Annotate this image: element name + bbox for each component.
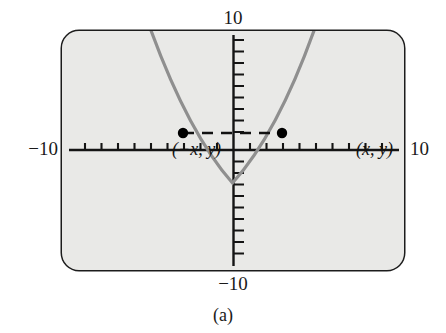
- figure-container: 10 −10 10 −10: [0, 0, 446, 333]
- axis-label-top: 10: [207, 8, 259, 27]
- point-label-left: (−x, y): [172, 140, 221, 158]
- point-label-right: (x, y): [356, 140, 393, 158]
- point-marker-right: [277, 128, 287, 138]
- axis-label-right: 10: [410, 139, 444, 158]
- axis-label-left: −10: [14, 139, 58, 158]
- figure-caption: (a): [0, 305, 446, 326]
- graph-screen: (−x, y) (x, y): [60, 29, 406, 272]
- point-marker-left: [178, 128, 188, 138]
- graph-svg: [60, 29, 406, 272]
- axis-label-bottom: −10: [205, 274, 261, 293]
